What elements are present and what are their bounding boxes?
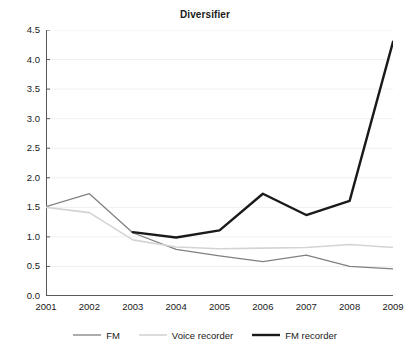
y-axis-tick-label: 2.5 bbox=[8, 143, 40, 153]
y-axis-tick-label: 4.0 bbox=[8, 55, 40, 65]
y-axis-tick-label: 1.0 bbox=[8, 232, 40, 242]
x-axis-tick-label: 2007 bbox=[284, 301, 328, 312]
x-axis-tick-label: 2005 bbox=[198, 301, 242, 312]
x-axis-tick-label: 2006 bbox=[241, 301, 285, 312]
series-line bbox=[133, 42, 393, 238]
legend-line-swatch bbox=[139, 331, 167, 339]
x-axis-tick-label: 2002 bbox=[67, 301, 111, 312]
y-axis-tick-label: 3.0 bbox=[8, 114, 40, 124]
series-line bbox=[46, 207, 393, 248]
x-axis-tick-labels: 200120022003200420052006200720082009 bbox=[46, 301, 393, 317]
x-axis-tick-label: 2008 bbox=[328, 301, 372, 312]
legend-label: FM recorder bbox=[285, 330, 337, 341]
legend-item[interactable]: FM bbox=[73, 330, 120, 341]
legend-line-swatch bbox=[73, 331, 101, 339]
legend-item[interactable]: Voice recorder bbox=[139, 330, 233, 341]
chart-title: Diversifier bbox=[0, 9, 410, 20]
y-axis-tick-label: 2.0 bbox=[8, 173, 40, 183]
y-axis-tick-labels: 4.54.03.53.02.52.01.51.00.50.0 bbox=[4, 30, 40, 296]
legend-line-swatch bbox=[252, 331, 280, 339]
y-axis-tick-label: 3.5 bbox=[8, 84, 40, 94]
y-axis-tick-label: 4.5 bbox=[8, 25, 40, 35]
legend-item[interactable]: FM recorder bbox=[252, 330, 337, 341]
y-axis-tick-label: 0.5 bbox=[8, 261, 40, 271]
line-chart-svg bbox=[46, 30, 393, 296]
y-axis-tick-label: 1.5 bbox=[8, 202, 40, 212]
x-axis-tick-label: 2004 bbox=[154, 301, 198, 312]
x-axis-tick-label: 2001 bbox=[24, 301, 68, 312]
legend-label: FM bbox=[106, 330, 120, 341]
chart-figure: Diversifier 4.54.03.53.02.52.01.51.00.50… bbox=[0, 0, 410, 350]
plot-area bbox=[46, 30, 393, 296]
chart-legend: FMVoice recorderFM recorder bbox=[0, 326, 410, 344]
x-axis-tick-label: 2009 bbox=[371, 301, 410, 312]
x-axis-tick-label: 2003 bbox=[111, 301, 155, 312]
legend-label: Voice recorder bbox=[172, 330, 233, 341]
y-axis-tick-label: 0.0 bbox=[8, 291, 40, 301]
